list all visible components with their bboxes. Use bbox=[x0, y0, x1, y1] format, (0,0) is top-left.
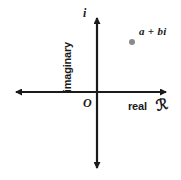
imaginary-axis-symbol-label: i bbox=[83, 7, 86, 19]
origin-label: O bbox=[83, 97, 92, 109]
imaginary-axis-name-label: imaginary bbox=[62, 0, 73, 42]
point-label: a + bi bbox=[139, 26, 167, 37]
complex-plane-figure: i imaginary O real ℛ a + bi bbox=[0, 0, 181, 180]
point-marker bbox=[129, 39, 135, 45]
imaginary-axis-name-text: imaginary bbox=[62, 42, 73, 92]
real-axis-name-label: real bbox=[128, 101, 147, 112]
